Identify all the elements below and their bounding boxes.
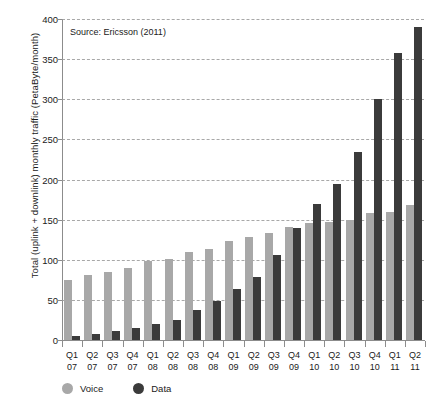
bar-voice <box>406 205 414 340</box>
x-axis-tick-label-line: 07 <box>102 361 122 373</box>
x-axis-tick-label-line: 09 <box>264 361 284 373</box>
x-axis-tick-label: Q207 <box>82 349 102 373</box>
bar-data <box>333 184 341 340</box>
bar-data <box>253 277 261 340</box>
x-axis-tick-mark <box>82 341 83 347</box>
x-axis-tick-label-line: Q4 <box>365 349 385 361</box>
x-axis-tick-label-line: Q2 <box>82 349 102 361</box>
x-axis-tick-label-line: 08 <box>183 361 203 373</box>
bar-group <box>323 19 343 340</box>
bar-voice <box>366 213 374 340</box>
x-axis-tick-label-line: 10 <box>324 361 344 373</box>
x-axis-tick-label-line: Q3 <box>102 349 122 361</box>
bar-group <box>183 19 203 340</box>
bar-data <box>273 255 281 340</box>
x-axis-tick-label-line: 08 <box>203 361 223 373</box>
plot-area: Source: Ericsson (2011) <box>62 19 424 340</box>
legend-label: Data <box>151 383 171 394</box>
legend-label: Voice <box>80 383 103 394</box>
x-axis-tick-label: Q310 <box>344 349 364 373</box>
bar-group <box>263 19 283 340</box>
bar-data <box>414 27 422 340</box>
bar-data <box>213 301 221 340</box>
x-axis-tick-mark <box>143 341 144 347</box>
x-axis-tick-label-line: 09 <box>244 361 264 373</box>
bar-data <box>293 228 301 340</box>
bar-data <box>92 334 100 340</box>
bar-voice <box>84 275 92 340</box>
y-axis-tick-label: 200 <box>28 174 58 185</box>
x-axis-tick-label: Q307 <box>102 349 122 373</box>
x-axis-tick-label-line: Q1 <box>223 349 243 361</box>
bar-voice <box>205 249 213 340</box>
x-axis-tick-label: Q410 <box>365 349 385 373</box>
x-axis-tick-mark <box>264 341 265 347</box>
bar-group <box>283 19 303 340</box>
x-axis-tick-label: Q309 <box>264 349 284 373</box>
x-axis-tick-mark <box>123 341 124 347</box>
x-axis-tick-label-line: Q2 <box>324 349 344 361</box>
x-axis-tick-label: Q211 <box>405 349 425 373</box>
y-axis-tick-label: 300 <box>28 94 58 105</box>
bar-data <box>152 324 160 340</box>
bar-data <box>313 204 321 340</box>
x-axis-tick-label-line: 07 <box>123 361 143 373</box>
bar-data <box>233 289 241 340</box>
bar-data <box>173 320 181 340</box>
y-axis-tick-label: 0 <box>28 335 58 346</box>
bar-group <box>364 19 384 340</box>
bar-voice <box>104 272 112 340</box>
bar-group <box>384 19 404 340</box>
x-axis-tick-mark <box>304 341 305 347</box>
x-axis-tick-label: Q110 <box>304 349 324 373</box>
x-axis-tick-mark <box>62 341 63 347</box>
legend-item[interactable]: Voice <box>62 383 103 394</box>
x-axis-tick-mark <box>344 341 345 347</box>
x-axis-tick-label-line: Q4 <box>284 349 304 361</box>
bar-group <box>243 19 263 340</box>
bar-chart: Total (uplink + downlink) monthly traffi… <box>0 0 437 408</box>
x-axis-tick-label-line: Q1 <box>385 349 405 361</box>
x-axis-tick-marks <box>62 341 425 348</box>
bar-voice <box>225 241 233 341</box>
x-axis-tick-label-line: Q2 <box>163 349 183 361</box>
x-axis-tick-label-line: 11 <box>385 361 405 373</box>
x-axis-tick-mark <box>324 341 325 347</box>
x-axis-tick-mark <box>244 341 245 347</box>
bar-group <box>404 19 424 340</box>
x-axis-tick-mark <box>203 341 204 347</box>
x-axis-tick-label: Q407 <box>123 349 143 373</box>
x-axis-tick-label: Q209 <box>244 349 264 373</box>
bar-group <box>203 19 223 340</box>
y-axis-tick-label: 150 <box>28 214 58 225</box>
bar-group <box>344 19 364 340</box>
x-axis-tick-label-line: 09 <box>284 361 304 373</box>
bar-series-container <box>62 19 424 340</box>
x-axis-tick-label-line: Q3 <box>183 349 203 361</box>
x-axis-tick-label: Q408 <box>203 349 223 373</box>
x-axis-tick-label-line: Q4 <box>123 349 143 361</box>
x-axis-tick-label-line: 10 <box>304 361 324 373</box>
bar-voice <box>245 237 253 340</box>
legend-item[interactable]: Data <box>133 383 171 394</box>
x-axis-tick-label-line: Q1 <box>143 349 163 361</box>
bar-group <box>122 19 142 340</box>
x-axis-tick-label-line: 10 <box>344 361 364 373</box>
bar-group <box>163 19 183 340</box>
bar-voice <box>144 261 152 340</box>
bar-group <box>62 19 82 340</box>
x-axis-tick-label-line: Q4 <box>203 349 223 361</box>
x-axis-tick-label-line: Q1 <box>304 349 324 361</box>
y-axis-tick-label: 50 <box>28 294 58 305</box>
legend-swatch-icon <box>62 383 73 394</box>
x-axis-tick-label-line: 10 <box>365 361 385 373</box>
legend-swatch-icon <box>133 383 144 394</box>
chart-legend: VoiceData <box>62 383 171 394</box>
x-axis-tick-label: Q111 <box>385 349 405 373</box>
x-axis-tick-label-line: Q1 <box>62 349 82 361</box>
bar-group <box>303 19 323 340</box>
bar-data <box>72 336 80 340</box>
x-axis-tick-label: Q108 <box>143 349 163 373</box>
x-axis-tick-label-line: Q3 <box>264 349 284 361</box>
bar-voice <box>64 280 72 340</box>
